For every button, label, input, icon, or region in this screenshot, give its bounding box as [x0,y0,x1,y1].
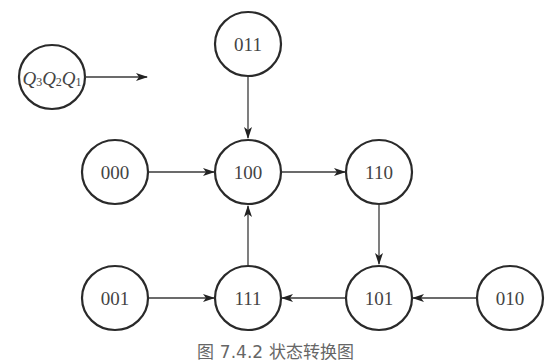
figure-caption: 图 7.4.2 状态转换图 [0,338,551,363]
state-label: 000 [101,162,130,183]
state-node-111: 111 [215,266,281,330]
legend: Q3Q2Q1 [19,45,147,109]
state-node-011: 011 [215,12,281,76]
state-node-100: 100 [215,140,281,204]
state-label: 111 [234,288,261,309]
state-node-101: 101 [346,266,412,330]
state-node-000: 000 [82,140,148,204]
edges [148,77,477,298]
legend-label: Q3Q2Q1 [22,68,81,90]
state-label: 011 [234,34,262,55]
state-label: 110 [365,162,393,183]
state-node-001: 001 [82,266,148,330]
state-label: 001 [101,288,130,309]
state-node-110: 110 [346,140,412,204]
state-node-010: 010 [477,266,543,330]
state-label: 100 [234,162,263,183]
state-label: 101 [365,288,394,309]
nodes: 011000100110001111101010 [82,12,543,330]
state-label: 010 [496,288,525,309]
